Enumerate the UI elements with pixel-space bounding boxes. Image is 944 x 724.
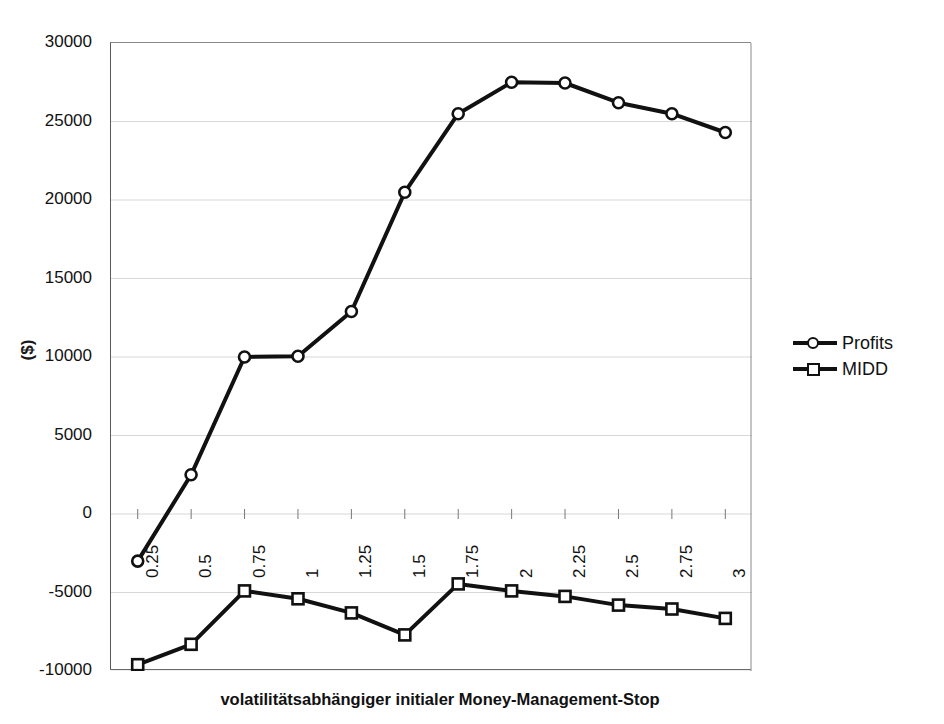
x-tick-label: 1.75 xyxy=(464,508,481,578)
data-point-marker xyxy=(720,613,731,624)
y-tick-label: 20000 xyxy=(6,190,92,207)
y-tick-label: 5000 xyxy=(6,426,92,443)
data-point-marker xyxy=(613,97,624,108)
data-point-marker xyxy=(560,591,571,602)
data-point-marker xyxy=(346,607,357,618)
legend-item-profits[interactable]: Profits xyxy=(793,330,893,356)
chart-container: ($) 300002500020000150001000050000-5000-… xyxy=(0,0,944,724)
x-tick-label: 3 xyxy=(731,508,748,578)
data-point-marker xyxy=(453,108,464,119)
data-point-marker xyxy=(293,351,304,362)
legend-square-marker-icon xyxy=(793,359,837,379)
data-point-marker xyxy=(186,469,197,480)
y-tick-label: 15000 xyxy=(6,269,92,286)
data-point-marker xyxy=(346,306,357,317)
y-tick-label: 10000 xyxy=(6,347,92,364)
x-tick-label: 2 xyxy=(518,508,535,578)
x-tick-label: 0.25 xyxy=(144,508,161,578)
data-point-marker xyxy=(613,600,624,611)
x-tick-label: 1.25 xyxy=(357,508,374,578)
y-tick-label: -5000 xyxy=(6,583,92,600)
y-tick-label: -10000 xyxy=(6,661,92,678)
data-point-marker xyxy=(666,108,677,119)
y-tick-label: 30000 xyxy=(6,33,92,50)
series-line-profits xyxy=(138,82,726,561)
legend-circle-marker-icon xyxy=(793,333,837,353)
legend-item-midd[interactable]: MIDD xyxy=(793,356,893,382)
data-point-marker xyxy=(186,639,197,650)
series-line-midd xyxy=(138,584,726,665)
x-tick-label: 2.75 xyxy=(678,508,695,578)
data-point-marker xyxy=(132,659,143,670)
y-axis-tick-labels: 300002500020000150001000050000-5000-1000… xyxy=(0,0,92,724)
x-axis-title: volatilitätsabhängiger initialer Money-M… xyxy=(0,690,880,709)
x-tick-label: 0.5 xyxy=(197,508,214,578)
x-tick-label: 2.25 xyxy=(571,508,588,578)
data-point-marker xyxy=(399,629,410,640)
y-tick-label: 25000 xyxy=(6,112,92,129)
data-point-marker xyxy=(720,127,731,138)
data-point-marker xyxy=(666,604,677,615)
data-point-marker xyxy=(293,593,304,604)
data-point-marker xyxy=(239,352,250,363)
data-point-marker xyxy=(506,77,517,88)
x-tick-label: 1 xyxy=(304,508,321,578)
x-tick-label: 1.5 xyxy=(411,508,428,578)
x-tick-label: 2.5 xyxy=(624,508,641,578)
data-point-marker xyxy=(560,78,571,89)
data-point-marker xyxy=(399,187,410,198)
chart-legend: ProfitsMIDD xyxy=(789,326,899,386)
y-tick-label: 0 xyxy=(6,504,92,521)
legend-label: Profits xyxy=(837,333,893,354)
x-axis-tick-labels: 0.250.50.7511.251.51.7522.252.52.753 xyxy=(110,512,751,592)
x-tick-label: 0.75 xyxy=(251,508,268,578)
legend-label: MIDD xyxy=(837,359,888,380)
